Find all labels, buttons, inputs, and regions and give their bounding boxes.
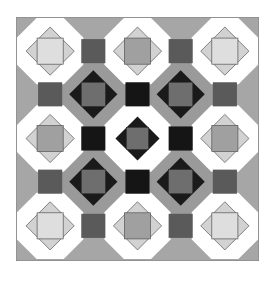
connector-square [125, 170, 149, 194]
connector-square [169, 214, 193, 238]
light-center-square [212, 125, 238, 151]
connector-square [81, 39, 105, 63]
light-center-square [212, 38, 238, 64]
dark-center-square [81, 82, 105, 106]
connector-square [125, 82, 149, 106]
light-center-square [124, 213, 150, 239]
light-center-square [212, 213, 238, 239]
dark-center-square [126, 127, 148, 149]
light-center-square [124, 38, 150, 64]
connector-square [169, 126, 193, 150]
light-center-square [37, 125, 63, 151]
dark-center-square [169, 170, 193, 194]
connector-square [38, 82, 62, 106]
dark-center-square [169, 82, 193, 106]
connector-square [213, 170, 237, 194]
light-center-square [37, 213, 63, 239]
connector-square [38, 170, 62, 194]
connector-square [81, 214, 105, 238]
quilt-pattern [16, 17, 259, 261]
connector-square [81, 126, 105, 150]
connector-square [169, 39, 193, 63]
dark-center-square [81, 170, 105, 194]
connector-square [213, 82, 237, 106]
light-center-square [37, 38, 63, 64]
